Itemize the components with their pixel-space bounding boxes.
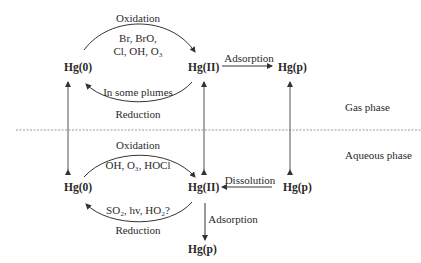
aq-hg0: Hg(0)	[64, 181, 92, 193]
aq-reduction-label: Reduction	[106, 224, 170, 236]
gas-oxidants-line1: Br, BrO,	[106, 32, 170, 44]
gas-hg0: Hg(0)	[64, 61, 92, 73]
aq-hgp: Hg(p)	[283, 181, 312, 193]
gas-phase-label: Gas phase	[345, 101, 390, 113]
aqueous-phase-label: Aqueous phase	[345, 149, 412, 161]
aq-adsorption-label: Adsorption	[208, 213, 258, 225]
aq-reductants: SO₂, hv, HO₂?	[100, 204, 176, 216]
gas-hgp: Hg(p)	[278, 61, 307, 73]
aq-dissolution-label: Dissolution	[224, 174, 276, 186]
gas-adsorption-label: Adsorption	[224, 52, 274, 64]
gas-oxidation-label: Oxidation	[106, 12, 170, 24]
gas-reduction-note: In some plumes	[100, 86, 176, 98]
aq-oxidants: OH, O₃, HOCl	[100, 159, 176, 171]
gas-hg2: Hg(II)	[188, 61, 219, 73]
aq-hg2: Hg(II)	[188, 181, 219, 193]
gas-reduction-label: Reduction	[106, 108, 170, 120]
aq-oxidation-label: Oxidation	[106, 139, 170, 151]
aq-hgp-bottom: Hg(p)	[188, 243, 217, 255]
gas-oxidants-line2: Cl, OH, O₃	[100, 45, 176, 57]
